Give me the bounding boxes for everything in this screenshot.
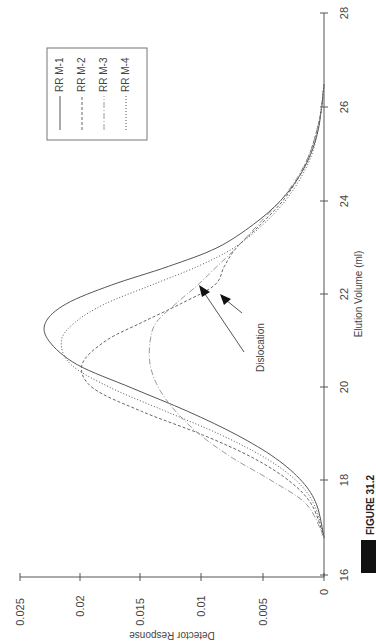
y-tick-0.005: 0.005: [257, 598, 269, 626]
y-tick-0: 0: [318, 589, 330, 595]
x-tick-24: 24: [338, 195, 350, 207]
series-line-rr-m-2: [81, 84, 324, 537]
y-tick-0.015: 0.015: [134, 598, 146, 626]
legend-label-rr-m-4: RR M-4: [120, 57, 131, 92]
y-axis-title: Detector Response: [129, 630, 215, 641]
series-line-rr-m-1: [44, 84, 324, 537]
dislocation-label: Dislocation: [255, 323, 266, 372]
legend: RR M-1 RR M-2 RR M-3 RR M-4: [47, 48, 147, 140]
x-tick-22: 22: [338, 288, 350, 300]
figure-caption: FIGURE 31.2: [361, 475, 376, 573]
series-line-rr-m-3: [149, 84, 324, 537]
x-tick-18: 18: [338, 474, 350, 486]
arrow-line-2: [226, 300, 242, 313]
legend-label-rr-m-1: RR M-1: [54, 57, 65, 92]
arrowhead-1-icon: [199, 285, 210, 297]
x-tick-26: 26: [338, 101, 350, 113]
dislocation-annotation: Dislocation: [199, 285, 266, 372]
series-layer: [44, 84, 324, 537]
legend-label-rr-m-2: RR M-2: [76, 57, 87, 92]
x-axis: 16 18 20 22 24 26 28 Elution Volume (ml): [320, 7, 364, 581]
caption-marker: [361, 540, 376, 573]
series-line-rr-m-4: [61, 84, 324, 537]
chromatogram-chart: 0.025 0.02 0.015 0.01 0.005 0 Detector R…: [0, 0, 376, 643]
x-tick-28: 28: [338, 7, 350, 19]
legend-label-rr-m-3: RR M-3: [98, 57, 109, 92]
x-axis-title: Elution Volume (ml): [353, 251, 364, 338]
y-axis: 0.025 0.02 0.015 0.01 0.005 0 Detector R…: [14, 573, 330, 641]
y-tick-0.01: 0.01: [195, 595, 207, 616]
y-tick-0.02: 0.02: [74, 595, 86, 616]
x-tick-20: 20: [338, 381, 350, 393]
caption-label: FIGURE 31.2: [365, 475, 376, 535]
x-tick-16: 16: [338, 569, 350, 581]
y-tick-0.025: 0.025: [14, 598, 26, 626]
